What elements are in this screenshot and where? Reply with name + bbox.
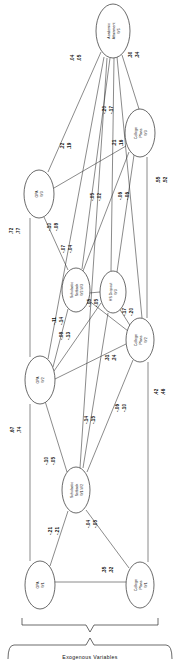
exogenous-variables-label: Exogenous Variables bbox=[62, 654, 117, 660]
coef-value-1: -.21 bbox=[48, 527, 53, 535]
coef-pair-e8: -.10 -.08 bbox=[47, 223, 59, 231]
coef-pair-e5: .21 .16 bbox=[112, 139, 124, 146]
node-scholastic-setback-w1-w2[interactable]: Scholastic Setback W1-W2 bbox=[62, 467, 90, 513]
coef-pair-e2: .30 .34 bbox=[128, 51, 140, 58]
coef-pair-e21: .42 .46 bbox=[154, 388, 166, 395]
coef-pair-e23: -.04 -.05 bbox=[86, 520, 98, 528]
node-gpa-w2[interactable]: GPA W2 bbox=[25, 356, 55, 404]
coef-value-2: .74 bbox=[17, 426, 22, 433]
coef-pair-e3: .04 .05 bbox=[70, 54, 82, 61]
edge-hs-w3-to-cp-w3 bbox=[117, 155, 134, 272]
coef-pair-e10: -.05 -.02 bbox=[90, 193, 102, 201]
node-hs-dropout-w3[interactable]: HS Dropout W3 bbox=[100, 271, 126, 313]
node-label-line1: College bbox=[134, 127, 138, 139]
coef-value-1: -.05 bbox=[87, 299, 92, 307]
node-college-plans-w1[interactable]: College Plans W1 bbox=[126, 562, 154, 608]
edge-cp-w3-to-aa-w5 bbox=[122, 55, 139, 109]
node-label-line2: W3 bbox=[40, 191, 44, 196]
path-diagram-canvas: Academic Attainment W5 College Plans W3 … bbox=[0, 0, 179, 666]
coef-value-2: -.05 bbox=[51, 457, 56, 465]
edge-cp-w1-to-ss-w1w2 bbox=[86, 510, 129, 568]
coef-value-1: .04 bbox=[70, 54, 75, 61]
node-label-line2: Setback bbox=[75, 483, 79, 496]
edge-ss-w2w3-to-hs-w3 bbox=[89, 292, 100, 293]
coef-value-2: -.17 bbox=[109, 106, 114, 114]
coef-value-1: -.05 bbox=[90, 193, 95, 201]
coef-value-1: -.08 bbox=[59, 332, 64, 340]
coef-value-2: .34 bbox=[135, 51, 140, 58]
coef-pair-e16: .31 .24 bbox=[105, 354, 117, 361]
node-academic-attainment-w5[interactable]: Academic Attainment W5 bbox=[96, 4, 130, 58]
coef-pair-e13: -.08 -.13 bbox=[59, 332, 71, 340]
node-label-line3: W5 bbox=[117, 28, 121, 33]
node-label-line3: W1 bbox=[144, 582, 148, 587]
coef-pair-e4: -.20 -.17 bbox=[102, 106, 114, 114]
coef-value-2: -.20 bbox=[129, 308, 134, 316]
coef-value-1: -.11 bbox=[52, 317, 57, 325]
coef-value-2: -.08 bbox=[54, 223, 59, 231]
node-label-line1: Scholastic bbox=[70, 482, 74, 498]
node-label-line1: GPA bbox=[36, 581, 40, 589]
coef-value-2: -.05 bbox=[93, 520, 98, 528]
node-gpa-w3[interactable]: GPA W3 bbox=[24, 170, 54, 218]
node-label-line1: GPA bbox=[35, 190, 39, 198]
node-label-line1: College bbox=[134, 334, 138, 346]
node-college-plans-w3[interactable]: College Plans W3 bbox=[125, 109, 155, 157]
node-gpa-w1[interactable]: GPA W1 bbox=[25, 561, 55, 609]
coef-value-2: .05 bbox=[77, 54, 82, 61]
edge-gpa-w1-to-ss-w1w2 bbox=[50, 511, 68, 566]
coef-value-1: .35 bbox=[102, 566, 107, 573]
coef-value-1: .42 bbox=[154, 388, 159, 395]
coef-value-1: -.10 bbox=[44, 457, 49, 465]
coef-value-1: -.04 bbox=[86, 520, 91, 528]
coef-pair-e12: -.11 -.14 bbox=[52, 317, 64, 325]
coef-value-1: -.20 bbox=[102, 106, 107, 114]
coef-value-1: -.07 bbox=[61, 245, 66, 253]
coef-value-2: -.10 bbox=[122, 404, 127, 412]
coef-pair-e15: -.17 -.20 bbox=[122, 308, 134, 316]
coef-pair-e19: -.06 -.10 bbox=[115, 404, 127, 412]
coef-pair-e14: -.05 -.05 bbox=[87, 299, 99, 307]
coef-pair-e22: -.21 -.21 bbox=[48, 527, 60, 535]
edge-ss-w1w2-to-cp-w2 bbox=[87, 360, 133, 472]
coef-pair-e9: -.07 -.04 bbox=[61, 245, 73, 253]
node-label-line1: College bbox=[134, 579, 138, 591]
node-label-line2: W2 bbox=[41, 377, 45, 382]
coef-pair-e17: -.10 -.05 bbox=[44, 457, 56, 465]
coef-value-1: -.14 bbox=[84, 416, 89, 424]
coef-value-2: -.05 bbox=[94, 299, 99, 307]
node-label-line2: W1 bbox=[41, 582, 45, 587]
coef-value-2: .52 bbox=[163, 176, 168, 183]
coef-value-2: .16 bbox=[119, 139, 124, 146]
coef-value-1: .21 bbox=[112, 139, 117, 146]
coef-value-2: -.13 bbox=[66, 332, 71, 340]
coef-value-2: .32 bbox=[109, 566, 114, 573]
coef-value-1: .72 bbox=[9, 227, 14, 234]
coef-value-2: .77 bbox=[16, 227, 21, 234]
coef-value-2: -.04 bbox=[68, 245, 73, 253]
node-label-line2: Attainment bbox=[112, 23, 116, 40]
edge-ss-w1w2-to-aa-w5 bbox=[80, 58, 107, 468]
edge-gpa-w2-to-aa-w5 bbox=[48, 57, 104, 359]
coef-pair-e20: .67 .74 bbox=[10, 426, 22, 433]
node-label-line2: Setback bbox=[75, 283, 79, 296]
node-label-line2: Plans bbox=[139, 580, 143, 589]
coef-value-1: -.17 bbox=[122, 308, 127, 316]
coef-pair-e1: .22 .19 bbox=[60, 142, 72, 149]
coef-value-2: .46 bbox=[161, 388, 166, 395]
coef-pair-e7: .72 .77 bbox=[9, 227, 21, 234]
node-label-line3: W1-W2 bbox=[80, 484, 84, 496]
edge-gpa-w3-to-aa-w5 bbox=[48, 52, 101, 172]
coef-value-1: -.10 bbox=[47, 223, 52, 231]
coef-value-1: .67 bbox=[10, 426, 15, 433]
node-scholastic-setback-w2-w3[interactable]: Scholastic Setback W2-W3 bbox=[62, 268, 90, 312]
coef-value-2: -.02 bbox=[97, 193, 102, 201]
edge-hs-w3-to-aa-w5 bbox=[111, 58, 114, 271]
coef-value-1: -.06 bbox=[115, 404, 120, 412]
coef-value-2: -.15 bbox=[91, 416, 96, 424]
coef-value-2: -.21 bbox=[55, 527, 60, 535]
node-label-line2: Plans bbox=[139, 335, 143, 344]
coef-value-1: .30 bbox=[128, 51, 133, 58]
node-college-plans-w2[interactable]: College Plans W2 bbox=[126, 318, 154, 362]
node-label-line2: W3 bbox=[114, 289, 118, 294]
